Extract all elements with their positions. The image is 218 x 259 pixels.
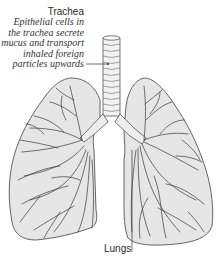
lungs-title: Lungs bbox=[104, 243, 131, 254]
trachea-desc-line-1: Epithelial cells in bbox=[0, 17, 84, 28]
trachea-pointer-dot bbox=[107, 63, 109, 65]
lungs-diagram: Trachea Epithelial cells in the trachea … bbox=[0, 0, 218, 259]
trachea-annotation: Trachea Epithelial cells in the trachea … bbox=[0, 6, 84, 70]
trachea-desc-line-5: particles upwards bbox=[0, 59, 84, 70]
trachea bbox=[103, 36, 120, 116]
